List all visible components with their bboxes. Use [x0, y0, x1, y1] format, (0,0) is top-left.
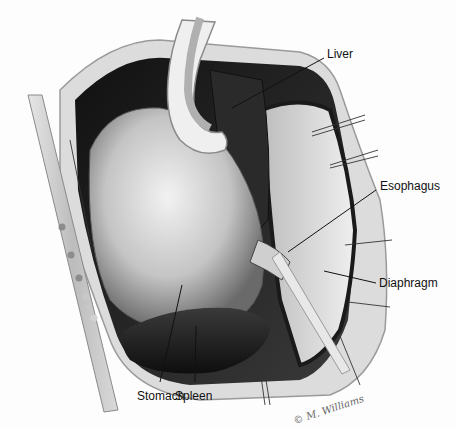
label-diaphragm: Diaphragm — [379, 276, 438, 290]
label-liver: Liver — [327, 47, 353, 61]
illustration-canvas: Liver Esophagus Diaphragm Stomach Spleen… — [0, 0, 456, 429]
anatomy-drawing — [0, 0, 456, 429]
label-esophagus: Esophagus — [380, 179, 440, 193]
label-spleen: Spleen — [175, 389, 212, 403]
